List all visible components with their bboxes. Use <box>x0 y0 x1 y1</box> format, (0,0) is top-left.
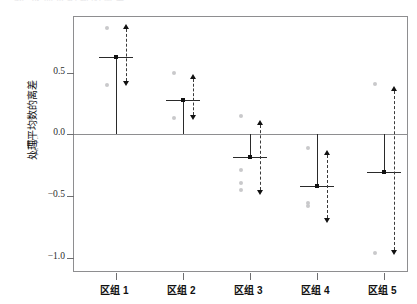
x-axis-tick-label: 区组 3 <box>234 282 262 297</box>
observation-point <box>373 251 377 255</box>
x-axis-tick-label: 区组 1 <box>100 282 128 297</box>
y-axis-tick-label: −0.5 <box>37 189 65 199</box>
x-axis-tick <box>183 273 184 280</box>
range-dashed-line <box>260 125 261 189</box>
mean-marker <box>248 155 252 159</box>
range-dashed-line <box>327 155 328 218</box>
formula-sub1: i. <box>33 148 39 151</box>
observation-point <box>239 114 243 118</box>
y-axis-formula: yi.−y.. <box>29 85 40 205</box>
range-dashed-line <box>394 91 395 251</box>
observation-point <box>306 204 310 208</box>
range-arrow-down <box>190 115 196 120</box>
mean-marker <box>382 170 386 174</box>
mean-stem-line <box>183 100 184 135</box>
mean-stem-line <box>116 57 117 135</box>
x-axis-tick <box>317 273 318 280</box>
observation-point <box>239 168 243 172</box>
zero-reference-line <box>74 134 407 135</box>
observation-point <box>172 71 176 75</box>
range-dashed-line <box>126 29 127 81</box>
x-axis-tick <box>250 273 251 280</box>
observation-point <box>373 82 377 86</box>
range-arrow-down <box>123 81 129 86</box>
y-axis-tick <box>67 258 74 259</box>
observation-point <box>105 26 109 30</box>
x-axis-tick <box>116 273 117 280</box>
observation-point <box>239 188 243 192</box>
range-arrow-up <box>391 86 397 91</box>
observation-point <box>105 83 109 87</box>
mean-stem-line <box>250 134 251 156</box>
y-axis-tick <box>67 196 74 197</box>
range-arrow-up <box>190 74 196 79</box>
mean-marker <box>181 98 185 102</box>
figure-root: 图 处理平均数的离差 处理平均数的离差 yi.−y.. 0.50.0−0.5−1… <box>0 0 417 304</box>
mean-stem-line <box>384 134 385 171</box>
x-axis-tick-label: 区组 4 <box>301 282 329 297</box>
range-arrow-down <box>257 190 263 195</box>
mean-marker <box>114 55 118 59</box>
range-arrow-down <box>324 218 330 223</box>
formula-y2: −y <box>29 139 38 148</box>
range-arrow-up <box>123 24 129 29</box>
x-axis-tick-label: 区组 5 <box>368 282 396 297</box>
x-axis-tick-label: 区组 2 <box>167 282 195 297</box>
y-axis-tick-label: 0.5 <box>37 66 65 76</box>
range-dashed-line <box>193 79 194 115</box>
y-axis-tick <box>67 73 74 74</box>
range-arrow-down <box>391 250 397 255</box>
observation-point <box>172 116 176 120</box>
y-axis-tick-label: 0.0 <box>37 127 65 137</box>
observation-point <box>239 181 243 185</box>
mean-marker <box>315 184 319 188</box>
range-arrow-up <box>257 120 263 125</box>
formula-y1: y <box>29 151 38 155</box>
plot-frame <box>73 16 408 272</box>
range-arrow-up <box>324 150 330 155</box>
observation-point <box>306 146 310 150</box>
mean-stem-line <box>317 134 318 186</box>
plot-area <box>74 17 407 271</box>
y-axis-tick-label: −1.0 <box>37 251 65 261</box>
x-axis-tick <box>384 273 385 280</box>
y-axis-tick <box>67 134 74 135</box>
